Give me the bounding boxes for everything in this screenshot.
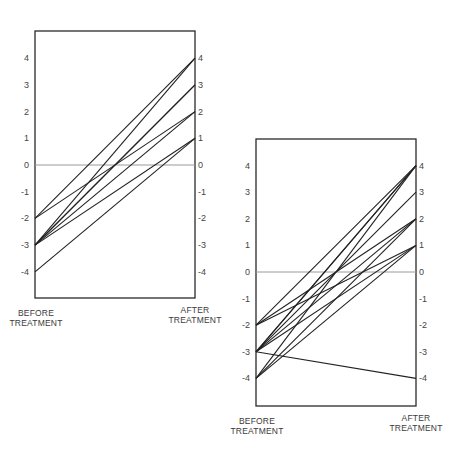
right-tick-label: 4 (198, 53, 203, 63)
right-tick-label: -4 (419, 373, 427, 383)
before-treatment-label: TREATMENT (230, 426, 283, 436)
before-treatment-label: TREATMENT (9, 318, 62, 328)
subject-change-line (35, 138, 195, 245)
right-tick-label: -3 (198, 240, 206, 250)
before-treatment-label: BEFORE (18, 308, 54, 318)
right-tick-label: 2 (419, 214, 424, 224)
right-tick-label: -3 (419, 347, 427, 357)
before-treatment-label: BEFORE (239, 416, 275, 426)
left-tick-label: -4 (21, 267, 29, 277)
after-treatment-label: TREATMENT (389, 423, 442, 433)
left-tick-label: 0 (245, 267, 250, 277)
right-tick-label: 2 (198, 107, 203, 117)
subject-change-line (256, 245, 416, 378)
right-tick-label: 4 (419, 161, 424, 171)
left-tick-label: -2 (242, 320, 250, 330)
left-tick-label: 4 (245, 161, 250, 171)
left-tick-label: -3 (21, 240, 29, 250)
right-tick-label: 0 (198, 160, 203, 170)
right-tick-label: -4 (198, 267, 206, 277)
right-tick-label: -2 (198, 213, 206, 223)
left-tick-label: 0 (24, 160, 29, 170)
subject-change-line (256, 219, 416, 379)
right-tick-label: 1 (419, 240, 424, 250)
subject-change-line (35, 58, 195, 245)
left-tick-label: -1 (242, 294, 250, 304)
subject-change-line (35, 138, 195, 271)
after-treatment-label: AFTER (181, 305, 210, 315)
left-tick-label: 3 (245, 187, 250, 197)
subject-change-line (256, 166, 416, 352)
left-tick-label: -1 (21, 187, 29, 197)
subject-change-line (256, 219, 416, 352)
subject-change-line (256, 352, 416, 379)
left-tick-label: 4 (24, 53, 29, 63)
left-tick-label: 2 (24, 107, 29, 117)
left-tick-label: -4 (242, 373, 250, 383)
right-tick-label: 3 (419, 187, 424, 197)
right-tick-label: 3 (198, 80, 203, 90)
after-treatment-label: AFTER (402, 413, 431, 423)
subject-change-line (35, 58, 195, 218)
after-treatment-label: TREATMENT (168, 315, 221, 325)
right-tick-label: 1 (198, 133, 203, 143)
left-tick-label: -2 (21, 213, 29, 223)
right-tick-label: -2 (419, 320, 427, 330)
chart-before-after-2: 4433221100-1-1-2-2-3-3-4-4BEFORETREATMEN… (230, 139, 442, 436)
left-tick-label: -3 (242, 347, 250, 357)
left-tick-label: 1 (24, 133, 29, 143)
left-tick-label: 2 (245, 214, 250, 224)
left-tick-label: 3 (24, 80, 29, 90)
right-tick-label: 0 (419, 267, 424, 277)
right-tick-label: -1 (419, 294, 427, 304)
subject-change-line (35, 112, 195, 246)
subject-change-line (256, 166, 416, 326)
right-tick-label: -1 (198, 187, 206, 197)
left-tick-label: 1 (245, 240, 250, 250)
chart-before-after-1: 4433221100-1-1-2-2-3-3-4-4BEFORETREATMEN… (9, 31, 221, 328)
figure-canvas: 4433221100-1-1-2-2-3-3-4-4BEFORETREATMEN… (0, 0, 459, 454)
